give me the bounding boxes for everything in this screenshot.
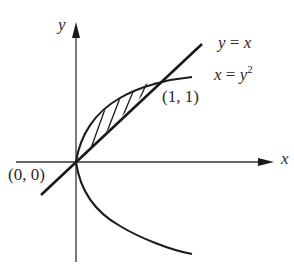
line-y-equals-x [41,44,202,195]
x-axis-label: x [281,150,289,167]
y-axis [72,22,80,262]
point-label-origin: (0, 0) [8,166,45,183]
hatch-pattern [70,55,168,175]
y-axis-label: y [58,16,66,33]
curve-label-parabola: x = y2 [214,64,253,83]
equation-lhs: y [218,33,226,52]
curve-label-line: y = x [218,34,251,51]
y-axis-arrow-icon [72,22,80,38]
equation-lhs: x [214,65,222,84]
x-axis [16,158,274,166]
equation-exponent: 2 [247,63,253,75]
point-label-intersection: (1, 1) [162,88,199,105]
diagram-figure: y x y = x x = y2 (1, 1) (0, 0) [0,0,294,268]
equation-rhs: x [244,33,252,52]
x-axis-arrow-icon [258,158,274,166]
